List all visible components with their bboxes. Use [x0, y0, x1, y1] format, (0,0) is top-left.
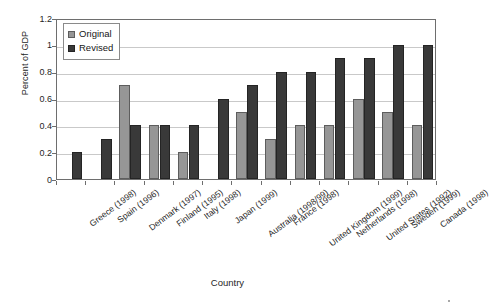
x-axis-title: Country — [0, 277, 455, 288]
page-speck — [448, 300, 450, 302]
